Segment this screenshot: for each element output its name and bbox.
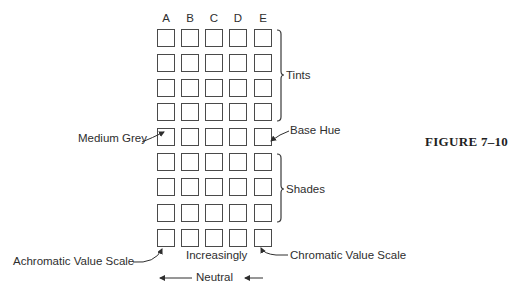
base-hue-label: Base Hue bbox=[290, 125, 341, 137]
achromatic-arrow bbox=[133, 249, 162, 262]
medium-grey-label: Medium Grey bbox=[78, 133, 147, 145]
shades-label: Shades bbox=[286, 184, 325, 196]
neutral-label: Neutral bbox=[196, 272, 233, 284]
tints-bracket bbox=[277, 30, 284, 121]
shades-bracket bbox=[277, 154, 284, 222]
increasingly-label: Increasingly bbox=[186, 250, 247, 262]
chromatic-value-scale-label: Chromatic Value Scale bbox=[290, 250, 406, 262]
tints-label: Tints bbox=[286, 70, 311, 82]
base-hue-arrow bbox=[271, 131, 289, 141]
figure-label: FIGURE 7–10 bbox=[425, 134, 508, 150]
chromatic-arrow bbox=[261, 248, 288, 255]
achromatic-value-scale-label: Achromatic Value Scale bbox=[13, 256, 134, 268]
